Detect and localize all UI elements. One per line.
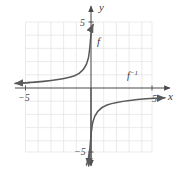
tick-label-x-left: −5 [18, 93, 30, 103]
function-f-label: f [97, 36, 100, 47]
graph-figure: y x f f−1 5 −5 −5 5 [0, 0, 181, 174]
curve-f-inverse-bottom-arrow [89, 150, 90, 166]
x-axis-label: x [168, 91, 173, 102]
curve-f-inverse [86, 98, 165, 165]
curve-f-left-arrow [15, 83, 30, 84]
y-axis-label: y [99, 2, 104, 13]
f-inverse-exponent: −1 [130, 69, 138, 77]
curve-f [16, 24, 93, 83]
grid-lines [26, 22, 153, 152]
plot-canvas [0, 0, 181, 174]
tick-label-y-bottom: −5 [74, 147, 86, 157]
tick-label-x-right: 5 [152, 94, 157, 104]
tick-marks [26, 22, 153, 152]
function-f-inverse-label: f−1 [127, 70, 138, 81]
tick-label-y-top: 5 [80, 18, 85, 28]
